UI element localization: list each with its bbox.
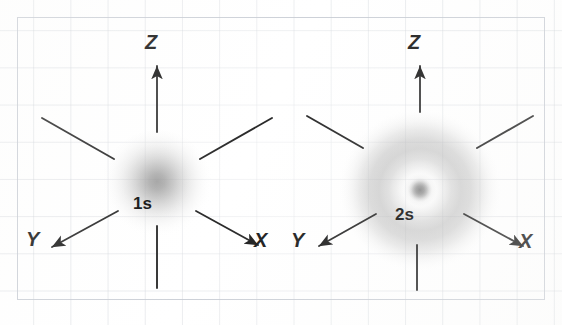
axis-line-upper-left-2s <box>307 116 363 148</box>
orbital-2s-graphic <box>281 0 562 325</box>
axis-line-upper-right-2s <box>477 116 533 148</box>
axis-label-z-2s: Z <box>408 32 420 52</box>
nucleus-core-2s <box>407 177 433 203</box>
orbital-figure: Z Y X 1s <box>0 0 562 325</box>
diagram-2s: Z Y X 2s <box>281 0 562 325</box>
orbital-label-2s: 2s <box>395 206 414 223</box>
orbital-1s-graphic <box>0 0 281 325</box>
axis-label-x-1s: X <box>254 230 267 250</box>
axis-arrow-x-1s <box>196 211 258 245</box>
axis-line-upper-left-1s <box>42 118 114 159</box>
diagram-1s: Z Y X 1s <box>0 0 281 325</box>
axis-label-y-2s: Y <box>291 230 304 250</box>
axis-label-y-1s: Y <box>26 229 39 249</box>
axis-line-upper-right-1s <box>200 118 272 159</box>
axis-arrow-y-1s <box>52 211 118 247</box>
axis-label-z-1s: Z <box>145 32 157 52</box>
orbital-label-1s: 1s <box>133 195 152 212</box>
axis-label-x-2s: X <box>519 231 532 251</box>
